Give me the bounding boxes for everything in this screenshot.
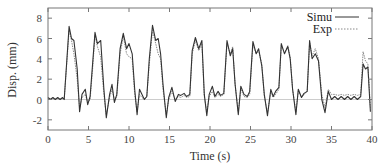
- legend-label-exp: Exp: [313, 22, 332, 36]
- line-simu: [48, 25, 370, 118]
- y-tick-label: 0: [37, 94, 43, 106]
- displacement-chart: 0510152025303540 -202468 Time (s) Disp. …: [0, 0, 388, 168]
- y-tick-label: 2: [37, 73, 43, 85]
- y-axis-label: Disp. (mm): [5, 42, 19, 97]
- x-axis-label: Time (s): [190, 149, 231, 163]
- y-tick-label: -2: [33, 114, 42, 126]
- x-tick-label: 15: [164, 133, 176, 145]
- x-tick-label: 35: [326, 133, 338, 145]
- legend: Simu Exp: [307, 10, 359, 36]
- x-tick-label: 10: [124, 133, 136, 145]
- x-tick-label: 0: [45, 133, 51, 145]
- x-tick-label: 20: [205, 133, 217, 145]
- series-simu: [48, 25, 370, 118]
- x-tick-label: 5: [86, 133, 92, 145]
- y-tick-label: 4: [37, 53, 43, 65]
- x-tick-label: 40: [367, 133, 379, 145]
- x-tick-label: 25: [245, 133, 257, 145]
- y-tick-label: 8: [37, 12, 43, 24]
- x-tick-label: 30: [286, 133, 298, 145]
- y-tick-label: 6: [37, 33, 43, 45]
